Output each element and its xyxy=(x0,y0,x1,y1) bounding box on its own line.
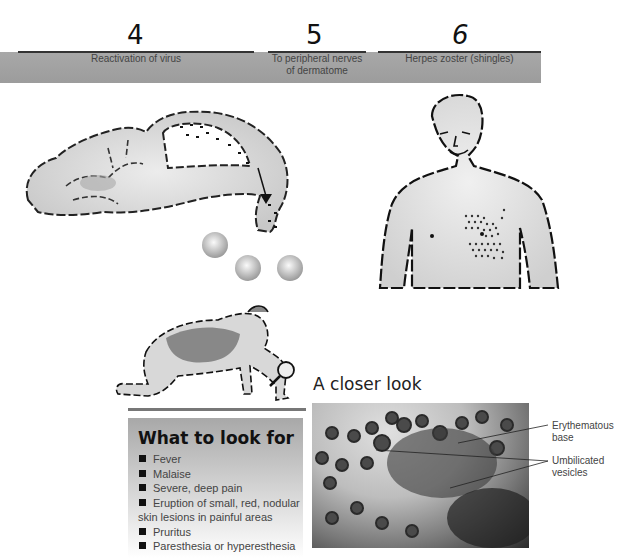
step-5-label-line2: of dermatome xyxy=(262,65,372,77)
step-6-number: 6 xyxy=(452,20,469,50)
square-bullet-icon xyxy=(139,470,146,477)
square-bullet-icon xyxy=(139,484,146,491)
torso-illustration xyxy=(370,88,570,318)
list-item: Eruption of small, red, nodular xyxy=(138,496,303,511)
square-bullet-icon xyxy=(139,455,146,462)
list-item: Fever xyxy=(138,452,303,467)
list-item: Malaise xyxy=(138,467,303,482)
callout-umbilicated-vesicles: Umbilicated vesicles xyxy=(552,455,604,479)
list-item: Severe, deep pain xyxy=(138,481,303,496)
what-to-look-for-panel: What to look for Fever Malaise Severe, d… xyxy=(128,418,303,558)
list-item: Paresthesia or hyperesthesia xyxy=(138,539,303,554)
step-4-number: 4 xyxy=(127,20,144,50)
brain-illustration xyxy=(18,108,298,248)
step-5-label-line1: To peripheral nerves xyxy=(262,53,372,65)
step-5-label: To peripheral nerves of dermatome xyxy=(262,53,372,77)
step-4-label: Reactivation of virus xyxy=(18,53,254,65)
examiner-illustration xyxy=(108,290,308,415)
list-item: Pruritus xyxy=(138,525,303,540)
callout-erythematous-base: Erythematous base xyxy=(552,420,614,444)
step-5-number: 5 xyxy=(306,20,323,50)
closer-look-title: A closer look xyxy=(313,374,422,394)
panel-title: What to look for xyxy=(138,428,303,448)
floor-line xyxy=(128,408,306,411)
square-bullet-icon xyxy=(139,542,146,549)
square-bullet-icon xyxy=(139,528,146,535)
virus-particles xyxy=(198,228,308,288)
callout-leader-lines xyxy=(300,400,560,500)
step-6-label: Herpes zoster (shingles) xyxy=(378,53,541,65)
list-item-continuation: skin lesions in painful areas xyxy=(128,510,303,525)
square-bullet-icon xyxy=(139,499,146,506)
